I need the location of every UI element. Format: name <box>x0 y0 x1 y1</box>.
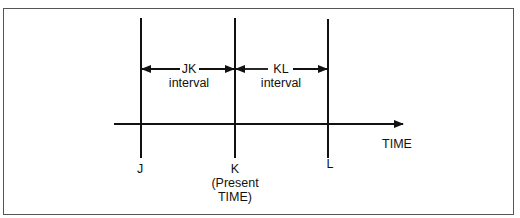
kl-interval-label: KL interval <box>261 62 301 90</box>
point-label-l: L <box>327 157 334 171</box>
k-sublabel-line1: (Present <box>211 176 258 190</box>
time-axis-label: TIME <box>382 137 412 151</box>
jk-interval-label: JK interval <box>169 62 209 90</box>
point-label-j: J <box>137 162 143 176</box>
k-label: K <box>211 162 258 176</box>
timeline-diagram <box>0 0 520 218</box>
kl-label-line2: interval <box>261 76 301 90</box>
kl-label-line1: KL <box>261 62 301 76</box>
jk-label-line1: JK <box>169 62 209 76</box>
k-sublabel-line2: TIME) <box>211 190 258 204</box>
point-label-k: K (Present TIME) <box>211 162 258 204</box>
jk-label-line2: interval <box>169 76 209 90</box>
